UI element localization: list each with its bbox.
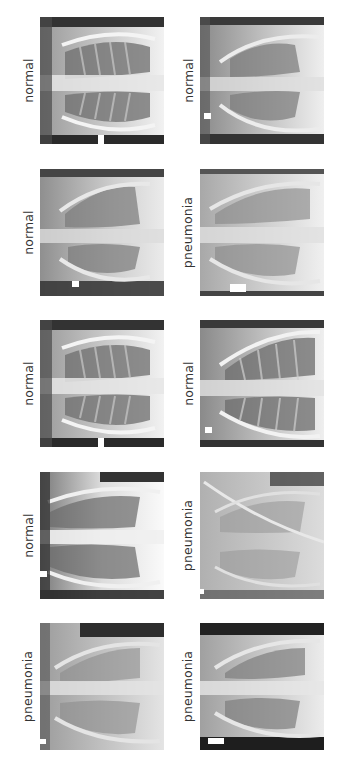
grid-cell: normal [40,472,164,599]
chest-xray-image [40,320,164,447]
grid-cell: pneumonia [200,169,324,296]
orientation-marker [205,427,212,433]
orientation-marker [200,589,204,594]
orientation-marker [72,281,79,287]
chest-xray-image [200,623,324,750]
grid-cell: pneumonia [40,623,164,750]
orientation-marker [40,571,47,577]
grid-cell: normal [40,17,164,144]
orientation-marker [98,135,104,144]
orientation-marker [204,113,211,119]
xray-normal-e [40,472,164,599]
grid-cell: normal [200,17,324,144]
grid-cell: normal [40,169,164,296]
xray-pneumonia-d [200,623,324,750]
grid-cell: pneumonia [200,623,324,750]
class-label-text: normal [181,58,196,102]
chest-xray-image [200,472,324,599]
class-label: normal [178,17,198,144]
chest-xray-image [40,17,164,144]
class-label: normal [18,320,38,447]
chest-xray-image [200,169,324,296]
class-label: pneumonia [178,472,198,599]
chest-xray-image [40,472,164,599]
class-label-text: pneumonia [181,197,196,268]
grid-cell: pneumonia [200,472,324,599]
xray-normal-c [40,169,164,296]
class-label-text: normal [21,210,36,254]
chest-xray-image [200,17,324,144]
class-label-text: normal [21,361,36,405]
class-label: normal [18,472,38,599]
xray-pneumonia-c [40,623,164,750]
grid-cell: normal [40,320,164,447]
class-label-text: normal [181,361,196,405]
orientation-marker [230,284,246,292]
class-label-text: pneumonia [181,500,196,571]
class-label: normal [178,320,198,447]
xray-normal-a [40,17,164,144]
xray-pneumonia-b [200,472,324,599]
orientation-marker [208,738,224,744]
class-label: normal [18,17,38,144]
class-label-text: normal [21,513,36,557]
chest-xray-image [200,320,324,447]
class-label-text: pneumonia [21,651,36,722]
xray-pneumonia-a [200,169,324,296]
class-label: pneumonia [178,623,198,750]
xray-normal-a [40,320,164,447]
class-label: pneumonia [18,623,38,750]
class-label: normal [18,169,38,296]
chest-xray-image [40,623,164,750]
class-label: pneumonia [178,169,198,296]
orientation-marker [40,739,46,744]
class-label-text: pneumonia [181,651,196,722]
xray-normal-b [200,17,324,144]
chest-xray-image [40,169,164,296]
xray-image-grid: normal [0,0,342,766]
grid-cell: normal [200,320,324,447]
orientation-marker [98,438,104,447]
class-label-text: normal [21,58,36,102]
xray-normal-d [200,320,324,447]
